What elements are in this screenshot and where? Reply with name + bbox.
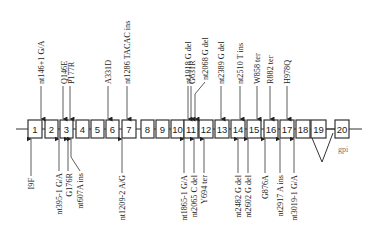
- mutation-top: R882 ter: [266, 55, 275, 119]
- exon-17: 17: [280, 120, 294, 138]
- mutation-top: nt2510 T ins: [236, 43, 245, 119]
- exon-label: 13: [217, 124, 228, 135]
- exon-7: 7: [122, 120, 136, 138]
- exon-label: 14: [233, 124, 244, 135]
- exon-label: 7: [126, 124, 131, 135]
- mutation-label: W858 ter: [253, 53, 262, 84]
- mutation-bottom: nt1865-1 G/A: [180, 139, 189, 221]
- gpi-label: gpi: [338, 145, 349, 154]
- mutation-bottom: I9F: [27, 139, 36, 189]
- exon-label: 10: [172, 124, 183, 135]
- mutation-top: nt1286 TACAC ins: [123, 21, 132, 119]
- mutation-label: G876A: [261, 175, 270, 199]
- mutation-top: H978Q: [283, 60, 292, 119]
- exon-12: 12: [199, 120, 213, 138]
- mutation-bottom: nt1209-2 A/G: [118, 139, 127, 220]
- exon-2: 2: [45, 120, 58, 138]
- exon-label: 15: [249, 124, 260, 135]
- exon-19: 19: [311, 120, 326, 138]
- mutation-label: nt395-1 G/A: [55, 173, 64, 215]
- mutation-top: nt146+1 G/A: [37, 40, 46, 119]
- exon-label: 11: [186, 124, 196, 135]
- mutation-arrow: [195, 82, 205, 119]
- exon-15: 15: [247, 120, 261, 138]
- exon-6: 6: [106, 120, 119, 138]
- mutation-top: nt2389 G del: [217, 41, 226, 119]
- mutation-top: A331D: [104, 60, 113, 119]
- mutation-bottom: G176R: [65, 139, 74, 197]
- mutation-bottom: G876A: [261, 139, 270, 199]
- mutation-label: nt607A ins: [76, 173, 85, 209]
- mutation-label: nt2917 A ins: [276, 175, 285, 216]
- exon-11: 11: [184, 120, 198, 138]
- mutation-bottom: nt2482 G del: [234, 139, 243, 218]
- mutation-bottom: nt2065 C del: [190, 139, 199, 217]
- mutation-label: nt2068 G del: [201, 37, 210, 80]
- mutation-bottom: nt2917 A ins: [276, 139, 285, 216]
- mutation-bottom: nt2602 G del: [244, 139, 253, 218]
- exon-label: 18: [298, 124, 309, 135]
- exon-label: 3: [64, 124, 69, 135]
- mutation-label: nt3019-1 G/A: [290, 175, 299, 221]
- mutation-label: A331D: [104, 60, 113, 84]
- mutation-bottom: Y694 ter: [200, 139, 209, 204]
- exon-10: 10: [171, 120, 184, 138]
- mutation-label: P177R: [67, 61, 76, 84]
- mutation-label: R882 ter: [266, 55, 275, 84]
- mutation-top: nt2068 G del: [195, 37, 210, 119]
- mutation-label: nt1865-1 G/A: [180, 175, 189, 221]
- exon-label: 20: [337, 124, 348, 135]
- exon-label: 17: [282, 124, 293, 135]
- exon-label: 12: [201, 124, 212, 135]
- mutation-label: nt2602 G del: [244, 174, 253, 217]
- exon-8: 8: [141, 120, 154, 138]
- mutation-label: nt146+1 G/A: [37, 40, 46, 84]
- exon-label: 8: [145, 124, 150, 135]
- mutation-label: nt2482 G del: [234, 174, 243, 217]
- exon-label: 4: [80, 124, 85, 135]
- bottom-mutations: I9Fnt395-1 G/AG176Rnt607A insnt1209-2 A/…: [27, 139, 299, 221]
- mutation-label: nt2389 G del: [217, 41, 226, 84]
- mutation-label: nt1209-2 A/G: [118, 175, 127, 220]
- mutation-label: H978Q: [283, 60, 292, 84]
- exon-5: 5: [91, 120, 104, 138]
- exon-label: 5: [95, 124, 100, 135]
- mutation-label: nt1286 TACAC ins: [123, 21, 132, 84]
- exon-3: 3: [60, 120, 73, 138]
- mutation-label: G176R: [65, 172, 74, 196]
- exon-9: 9: [156, 120, 169, 138]
- exon-label: 1: [32, 124, 37, 135]
- exon-label: 9: [160, 124, 165, 135]
- mutation-bottom: nt3019-1 G/A: [290, 139, 299, 221]
- exon-18: 18: [296, 120, 310, 138]
- mutation-label: nt2065 C del: [190, 174, 199, 217]
- exon-1: 1: [28, 120, 42, 138]
- exon-13: 13: [215, 120, 229, 138]
- mutation-label: Y694 ter: [200, 175, 209, 204]
- mutation-top: P177R: [67, 61, 76, 119]
- mutation-arrow: [71, 139, 80, 171]
- gene-mutation-diagram: 1234567891011121314151617181920 nt146+1 …: [0, 0, 372, 230]
- exon-label: 2: [49, 124, 54, 135]
- exon-label: 16: [266, 124, 277, 135]
- mutation-label: nt2510 T ins: [236, 43, 245, 84]
- mutation-label: G631R: [188, 60, 197, 84]
- exon-14: 14: [231, 120, 245, 138]
- mutation-label: I9F: [27, 178, 36, 190]
- mutation-top: W858 ter: [253, 53, 262, 119]
- exon-label: 19: [313, 124, 324, 135]
- top-mutations: nt146+1 G/AQ146EP177RA331Dnt1286 TACAC i…: [37, 21, 292, 119]
- exon-4: 4: [76, 120, 89, 138]
- exon-label: 6: [110, 124, 115, 135]
- exon-20: 20: [335, 120, 349, 138]
- mutation-top: G631R: [188, 60, 197, 119]
- exon-track: 1234567891011121314151617181920: [28, 120, 349, 138]
- exon-16: 16: [264, 120, 278, 138]
- mutation-bottom: nt395-1 G/A: [55, 139, 64, 215]
